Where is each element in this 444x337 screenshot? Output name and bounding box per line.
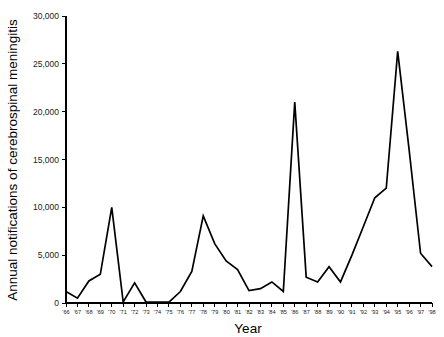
x-axis-title: Year <box>234 321 262 336</box>
line-chart: 05,00010,00015,00020,00025,00030,000 '66… <box>0 0 444 337</box>
x-axis-tick-label: '69 <box>97 309 104 315</box>
x-axis-tick-label: '66 <box>62 309 69 315</box>
x-axis-tick-label: '91 <box>348 309 355 315</box>
x-axis-tick-label: '78 <box>200 309 207 315</box>
x-axis-tick-label: '86 <box>291 309 298 315</box>
y-axis-ticks <box>62 16 66 303</box>
y-axis-title: Annual notifications of cerebrospinal me… <box>5 19 20 301</box>
y-axis-tick-label: 25,000 <box>33 59 59 69</box>
y-axis-tick-label: 15,000 <box>33 155 59 165</box>
x-axis-tick-label: '76 <box>177 309 184 315</box>
x-axis-tick-label: '90 <box>337 309 344 315</box>
x-axis-tick-label: '68 <box>85 309 92 315</box>
x-axis-tick-label: '98 <box>428 309 435 315</box>
x-axis-tick-label: '95 <box>394 309 401 315</box>
x-axis-tick-label: '74 <box>154 309 161 315</box>
x-axis-tick-label: '96 <box>405 309 412 315</box>
x-axis-tick-label: '67 <box>74 309 81 315</box>
x-axis-tick-label: '75 <box>165 309 172 315</box>
x-axis-tick-label: '93 <box>371 309 378 315</box>
x-axis-tick-label: '73 <box>142 309 149 315</box>
x-axis-tick-label: '81 <box>234 309 241 315</box>
x-axis-tick-label: '83 <box>257 309 264 315</box>
x-axis-tick-label: '89 <box>325 309 332 315</box>
x-axis-tick-label: '80 <box>222 309 229 315</box>
x-axis-tick-label: '85 <box>280 309 287 315</box>
x-axis-tick-label: '72 <box>131 309 138 315</box>
data-series-line <box>66 51 432 302</box>
x-axis-tick-label: '97 <box>417 309 424 315</box>
y-axis-tick-label: 10,000 <box>33 202 59 212</box>
x-axis-tick-label: '92 <box>360 309 367 315</box>
chart-container: 05,00010,00015,00020,00025,00030,000 '66… <box>0 0 444 337</box>
y-axis-tick-label: 20,000 <box>33 107 59 117</box>
x-axis-tick-label: '94 <box>383 309 390 315</box>
y-axis-tick-labels: 05,00010,00015,00020,00025,00030,000 <box>33 11 59 308</box>
x-axis-tick-label: '88 <box>314 309 321 315</box>
x-axis-tick-labels: '66'67'68'69'70'71'72'73'74'75'76'77'78'… <box>62 309 435 315</box>
y-axis-tick-label: 5,000 <box>38 250 60 260</box>
x-axis-tick-label: '87 <box>303 309 310 315</box>
x-axis-tick-label: '84 <box>268 309 275 315</box>
x-axis-tick-label: '79 <box>211 309 218 315</box>
y-axis-tick-label: 0 <box>54 298 59 308</box>
plot-area: 05,00010,00015,00020,00025,00030,000 '66… <box>33 11 436 315</box>
x-axis-tick-label: '70 <box>108 309 115 315</box>
y-axis-tick-label: 30,000 <box>33 11 59 21</box>
x-axis-tick-label: '77 <box>188 309 195 315</box>
x-axis-tick-label: '82 <box>245 309 252 315</box>
x-axis-tick-label: '71 <box>120 309 127 315</box>
